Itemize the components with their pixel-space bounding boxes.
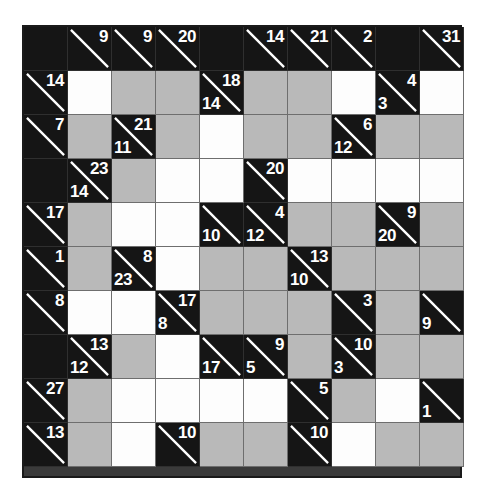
entry-cell-white[interactable] xyxy=(112,423,156,467)
entry-cell-gray[interactable] xyxy=(68,423,112,467)
clue-cell: 1312 xyxy=(68,335,112,379)
entry-cell-white[interactable] xyxy=(156,159,200,203)
entry-cell-gray[interactable] xyxy=(332,379,376,423)
entry-cell-gray[interactable] xyxy=(288,115,332,159)
entry-value xyxy=(244,71,287,114)
entry-cell-gray[interactable] xyxy=(420,335,464,379)
entry-value xyxy=(68,247,111,290)
entry-value xyxy=(420,335,463,378)
entry-cell-gray[interactable] xyxy=(420,247,464,291)
entry-cell-white[interactable] xyxy=(332,159,376,203)
entry-cell-white[interactable] xyxy=(68,291,112,335)
entry-cell-gray[interactable] xyxy=(420,423,464,467)
clue-down-value: 10 xyxy=(354,335,372,355)
kakuro-grid[interactable]: 9920142123114181443721116122314201710412… xyxy=(22,25,462,478)
clue-cell: 2314 xyxy=(68,159,112,203)
entry-cell-white[interactable] xyxy=(156,335,200,379)
entry-cell-white[interactable] xyxy=(332,71,376,115)
clue-down-value: 5 xyxy=(319,379,328,399)
entry-cell-gray[interactable] xyxy=(376,115,420,159)
clue-down-value: 17 xyxy=(46,203,64,223)
clue-down-value: 10 xyxy=(178,423,196,443)
entry-cell-white[interactable] xyxy=(288,159,332,203)
entry-cell-gray[interactable] xyxy=(288,335,332,379)
entry-cell-gray[interactable] xyxy=(68,203,112,247)
clue-cell: 7 xyxy=(24,115,68,159)
entry-cell-white[interactable] xyxy=(332,423,376,467)
entry-value xyxy=(156,247,199,290)
clue-cell: 21 xyxy=(288,27,332,71)
entry-cell-gray[interactable] xyxy=(112,71,156,115)
entry-cell-white[interactable] xyxy=(200,159,244,203)
clue-down-value: 9 xyxy=(407,203,416,223)
block-cell xyxy=(200,27,244,71)
entry-value xyxy=(288,115,331,158)
clue-down-value: 9 xyxy=(143,27,152,47)
entry-cell-gray[interactable] xyxy=(244,291,288,335)
block-cell xyxy=(24,335,68,379)
entry-value xyxy=(288,203,331,246)
entry-cell-gray[interactable] xyxy=(332,247,376,291)
entry-cell-gray[interactable] xyxy=(244,423,288,467)
clue-across-value: 11 xyxy=(114,138,131,158)
entry-value xyxy=(200,423,243,466)
entry-cell-gray[interactable] xyxy=(156,115,200,159)
entry-cell-gray[interactable] xyxy=(200,247,244,291)
clue-down-value: 18 xyxy=(222,71,240,91)
clue-down-value: 9 xyxy=(99,27,108,47)
entry-cell-white[interactable] xyxy=(112,203,156,247)
entry-value xyxy=(376,335,419,378)
entry-cell-gray[interactable] xyxy=(376,335,420,379)
clue-down-value: 2 xyxy=(363,27,372,47)
entry-cell-gray[interactable] xyxy=(288,203,332,247)
entry-cell-white[interactable] xyxy=(112,291,156,335)
entry-value xyxy=(68,379,111,422)
clue-cell: 10 xyxy=(156,423,200,467)
entry-value xyxy=(376,379,419,422)
entry-cell-white[interactable] xyxy=(420,159,464,203)
clue-down-value: 21 xyxy=(310,27,328,47)
entry-value xyxy=(200,115,243,158)
entry-cell-gray[interactable] xyxy=(376,247,420,291)
entry-cell-gray[interactable] xyxy=(376,291,420,335)
clue-cell: 43 xyxy=(376,71,420,115)
entry-cell-gray[interactable] xyxy=(68,379,112,423)
clue-cell: 9 xyxy=(68,27,112,71)
entry-cell-white[interactable] xyxy=(156,203,200,247)
entry-cell-white[interactable] xyxy=(420,71,464,115)
entry-cell-gray[interactable] xyxy=(200,423,244,467)
entry-cell-gray[interactable] xyxy=(420,203,464,247)
entry-cell-gray[interactable] xyxy=(244,115,288,159)
entry-cell-gray[interactable] xyxy=(68,247,112,291)
entry-cell-white[interactable] xyxy=(376,159,420,203)
entry-cell-gray[interactable] xyxy=(288,71,332,115)
entry-cell-gray[interactable] xyxy=(112,159,156,203)
entry-cell-white[interactable] xyxy=(200,115,244,159)
entry-cell-white[interactable] xyxy=(68,71,112,115)
entry-cell-white[interactable] xyxy=(156,379,200,423)
clue-cell: 10 xyxy=(288,423,332,467)
entry-cell-white[interactable] xyxy=(376,379,420,423)
entry-cell-white[interactable] xyxy=(156,247,200,291)
entry-value xyxy=(156,203,199,246)
entry-cell-gray[interactable] xyxy=(244,71,288,115)
entry-value xyxy=(288,291,331,334)
entry-cell-gray[interactable] xyxy=(288,291,332,335)
entry-value xyxy=(420,159,463,202)
entry-cell-gray[interactable] xyxy=(112,335,156,379)
clue-across-value: 3 xyxy=(334,358,343,378)
entry-cell-white[interactable] xyxy=(112,379,156,423)
entry-cell-gray[interactable] xyxy=(156,71,200,115)
clue-across-value: 12 xyxy=(334,138,352,158)
entry-cell-white[interactable] xyxy=(244,379,288,423)
entry-cell-gray[interactable] xyxy=(420,115,464,159)
clue-down-value: 20 xyxy=(178,27,196,47)
entry-cell-gray[interactable] xyxy=(244,247,288,291)
entry-cell-gray[interactable] xyxy=(200,291,244,335)
clue-cell: 8 xyxy=(24,291,68,335)
entry-cell-gray[interactable] xyxy=(332,203,376,247)
entry-value xyxy=(288,335,331,378)
entry-cell-white[interactable] xyxy=(200,379,244,423)
entry-cell-gray[interactable] xyxy=(68,115,112,159)
entry-cell-gray[interactable] xyxy=(376,423,420,467)
